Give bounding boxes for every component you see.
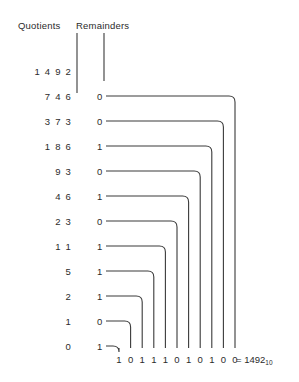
wire-connections: [0, 0, 299, 382]
remainder-wire: [106, 221, 177, 348]
remainder-wire: [106, 246, 165, 348]
remainder-wire: [106, 196, 189, 348]
remainder-wire: [106, 296, 142, 348]
division-conversion-diagram: Quotients Remainders 1 4 9 27 4 63 7 31 …: [0, 0, 299, 382]
remainder-wire: [106, 346, 119, 352]
remainder-wire-group: [106, 96, 235, 352]
remainder-wire: [106, 321, 131, 348]
remainder-wire: [106, 96, 235, 348]
remainder-wire: [106, 146, 212, 348]
remainder-wire: [106, 271, 154, 348]
header-arrow-group: [77, 33, 104, 93]
remainder-wire: [106, 121, 223, 348]
